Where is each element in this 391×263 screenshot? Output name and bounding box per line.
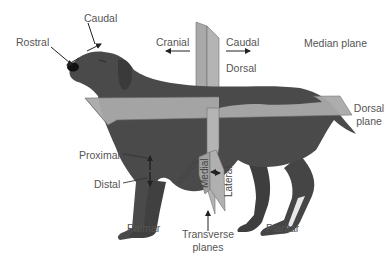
label-caudal-head: Caudal [84,13,117,24]
rostral-arrow [51,47,70,63]
label-transverse-line1: Transverse [175,229,241,240]
label-transverse-planes: Transverse planes [175,229,241,252]
label-rostral: Rostral [16,37,49,48]
label-transverse-line2: planes [175,242,241,253]
label-dorsal: Dorsal [226,63,256,74]
label-cranial: Cranial [156,37,189,48]
label-caudal-body: Caudal [226,37,259,48]
label-distal: Distal [94,179,120,190]
label-medial: Medial [200,159,210,188]
label-dorsal-plane: Dorsal plane [348,103,390,126]
rostral-caudal-double [87,44,101,51]
label-lateral: Lateral [224,166,234,197]
label-dorsal-plane-line2: plane [348,116,390,127]
label-median-plane: Median plane [304,38,367,49]
label-palmar: Palmar [127,223,160,234]
median-plane-upper [196,22,219,92]
caudal-head-arrow [88,23,95,44]
label-proximal: Proximal [79,150,120,161]
label-dorsal-plane-line1: Dorsal [348,103,390,114]
label-plantar: Plantar [266,223,299,234]
